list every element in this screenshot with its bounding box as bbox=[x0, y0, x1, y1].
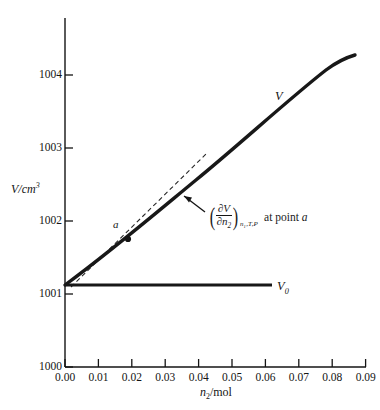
x-tick-label-0.00: 0.00 bbox=[48, 372, 81, 384]
x-axis-ticks bbox=[65, 359, 366, 367]
left-paren: ( bbox=[210, 207, 215, 227]
derivative-denominator-symbol: ∂n bbox=[217, 215, 228, 227]
partial-derivative-fraction: ∂V ∂n2 bbox=[216, 203, 233, 230]
at-point-name: a bbox=[302, 211, 308, 223]
y-axis-title: V/cm3 bbox=[11, 182, 40, 195]
axis-lines bbox=[65, 18, 366, 367]
at-point-text: at point bbox=[264, 211, 302, 223]
x-tick-label-0.08: 0.08 bbox=[316, 372, 349, 384]
x-tick-label-0.03: 0.03 bbox=[149, 372, 182, 384]
curve-label-V0: V0 bbox=[277, 280, 289, 296]
y-tick-label-1003: 1003 bbox=[22, 142, 62, 154]
x-tick-label-0.09: 0.09 bbox=[349, 372, 380, 384]
derivative-denominator-subscript: 2 bbox=[228, 222, 232, 230]
y-axis-title-text: V/cm bbox=[11, 182, 36, 196]
curve-label-V0-subscript: 0 bbox=[285, 287, 289, 296]
point-label-a: a bbox=[113, 219, 119, 230]
x-tick-label-0.04: 0.04 bbox=[182, 372, 215, 384]
right-paren: ) bbox=[233, 207, 238, 227]
y-tick-label-1004: 1004 bbox=[22, 69, 62, 81]
x-axis-title-units: /mol bbox=[210, 385, 232, 399]
y-tick-label-1002: 1002 bbox=[22, 215, 62, 227]
annotation-arrow bbox=[184, 196, 205, 212]
y-tick-label-1001: 1001 bbox=[22, 288, 62, 300]
derivative-annotation: ( ∂V ∂n2 ) n1,T,P at point a bbox=[208, 203, 308, 230]
y-axis-title-exponent: 3 bbox=[36, 181, 40, 190]
x-tick-label-0.01: 0.01 bbox=[82, 372, 115, 384]
condition-tail: ,T,P bbox=[246, 220, 258, 228]
x-tick-label-0.05: 0.05 bbox=[215, 372, 248, 384]
point-a-marker bbox=[125, 236, 131, 242]
x-tick-label-0.07: 0.07 bbox=[282, 372, 315, 384]
derivative-conditions-subscript: n1,T,P bbox=[240, 220, 258, 230]
x-tick-label-0.06: 0.06 bbox=[249, 372, 282, 384]
x-axis-title: n2/mol bbox=[200, 386, 232, 401]
curve-label-V0-symbol: V bbox=[277, 279, 285, 293]
y-axis-ticks bbox=[65, 75, 73, 367]
x-tick-label-0.02: 0.02 bbox=[115, 372, 148, 384]
curve-label-V: V bbox=[275, 90, 283, 103]
derivative-denominator: ∂n2 bbox=[216, 216, 233, 231]
at-point-annotation: at point a bbox=[264, 211, 307, 223]
v-curve bbox=[65, 55, 355, 285]
